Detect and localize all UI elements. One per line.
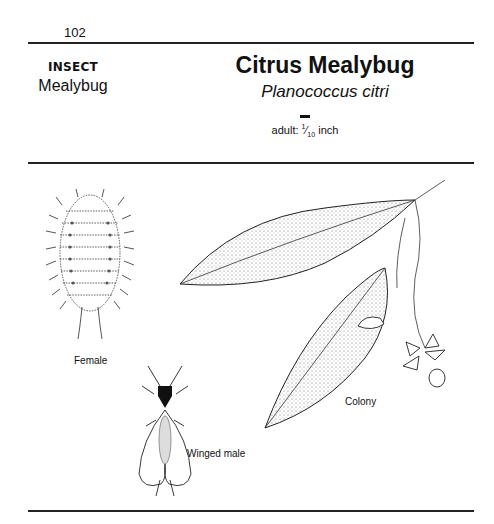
- scientific-name: Planococcus citri: [175, 82, 475, 102]
- category-label: INSECT: [33, 60, 113, 74]
- scale-bar: [300, 115, 310, 118]
- size-numerator: 1: [302, 123, 306, 130]
- page-title: Citrus Mealybug: [175, 52, 475, 79]
- citrus-leaf-colony-illustration: [175, 178, 470, 433]
- page-number: 102: [64, 25, 86, 40]
- size-denominator: 10: [307, 131, 315, 138]
- middle-rule: [28, 162, 474, 164]
- adult-size-label: adult: 1⁄10 inch: [250, 123, 360, 138]
- size-prefix: adult:: [272, 124, 302, 136]
- size-unit: inch: [315, 124, 338, 136]
- figure-label-colony: Colony: [345, 396, 376, 407]
- bottom-rule: [28, 510, 474, 512]
- figure-label-female: Female: [74, 355, 107, 366]
- top-rule: [28, 42, 474, 44]
- figure-label-winged-male: Winged male: [187, 448, 245, 459]
- female-mealybug-illustration: [40, 185, 140, 345]
- group-label: Mealybug: [33, 77, 113, 95]
